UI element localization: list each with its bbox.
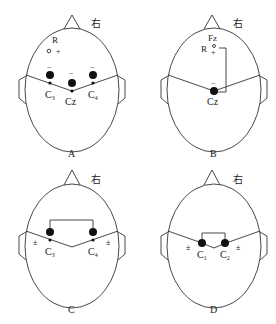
panel-caption: B [210,148,217,159]
pm-sign-right: ± [106,238,111,247]
neg-sign-cz: − [69,69,74,78]
pm-sign-left: ± [186,243,191,252]
neg-sign-c3: − [47,63,52,72]
right-label: 右 [91,173,101,185]
right-label: 右 [233,17,243,29]
fz-label: Fz [208,33,217,43]
right-label: 右 [233,173,243,185]
label-c4: C4 [88,89,98,101]
neg-sign-c4: − [90,63,95,72]
electrode-c4-active [89,71,97,79]
eeg-montage-diagram: 右 R + − − − C3 Cz C4 A 右 Fz R + − Cz B [0,0,276,324]
panel-caption: A [68,148,76,159]
head-outline [25,184,119,308]
connection-wire [218,48,226,92]
pm-sign-right: ± [236,243,241,252]
label-c3: C3 [45,246,55,258]
label-c1: C1 [197,249,207,261]
pm-sign-left: ± [33,238,38,247]
connection-wire [202,233,225,242]
electrode-c3 [48,238,51,241]
electrode-cz-active [68,79,76,87]
electrode-c3-active [46,71,54,79]
label-cz: Cz [207,96,219,107]
nose-icon [204,15,220,29]
panel-c: 右 ± ± C3 C4 C [19,170,125,315]
plus-sign: + [56,47,61,56]
connection-wire [50,220,93,231]
electrode-c2-active [221,239,229,247]
panel-d: 右 ± ± C1 C2 D [161,170,267,315]
label-c3: C3 [45,89,55,101]
neg-sign: − [211,79,216,88]
electrode-cz [70,89,73,92]
plus-sign: + [211,48,216,57]
head-outline [167,184,261,308]
panel-a: 右 R + − − − C3 Cz C4 A [19,15,125,159]
right-label: 右 [91,17,101,29]
nose-icon [64,170,80,185]
electrode-c4-active [89,228,97,236]
reference-label: R [52,35,58,45]
label-c4: C4 [88,246,98,258]
panel-caption: D [210,304,217,315]
nose-icon [64,15,80,29]
electrode-c3 [48,81,51,84]
electrode-c1-active [198,239,206,247]
electrode-c4 [91,81,94,84]
panel-b: 右 Fz R + − Cz B [161,15,267,159]
coronal-line [26,231,118,247]
label-c2: C2 [220,249,230,261]
electrode-c4 [91,238,94,241]
panel-caption: C [68,304,75,315]
label-cz: Cz [65,96,77,107]
nose-icon [204,170,220,185]
electrode-c3-active [46,228,54,236]
electrode-cz-active [210,87,218,95]
coronal-line [168,231,260,248]
reference-label: R [201,44,207,54]
reference-electrode [47,49,51,53]
